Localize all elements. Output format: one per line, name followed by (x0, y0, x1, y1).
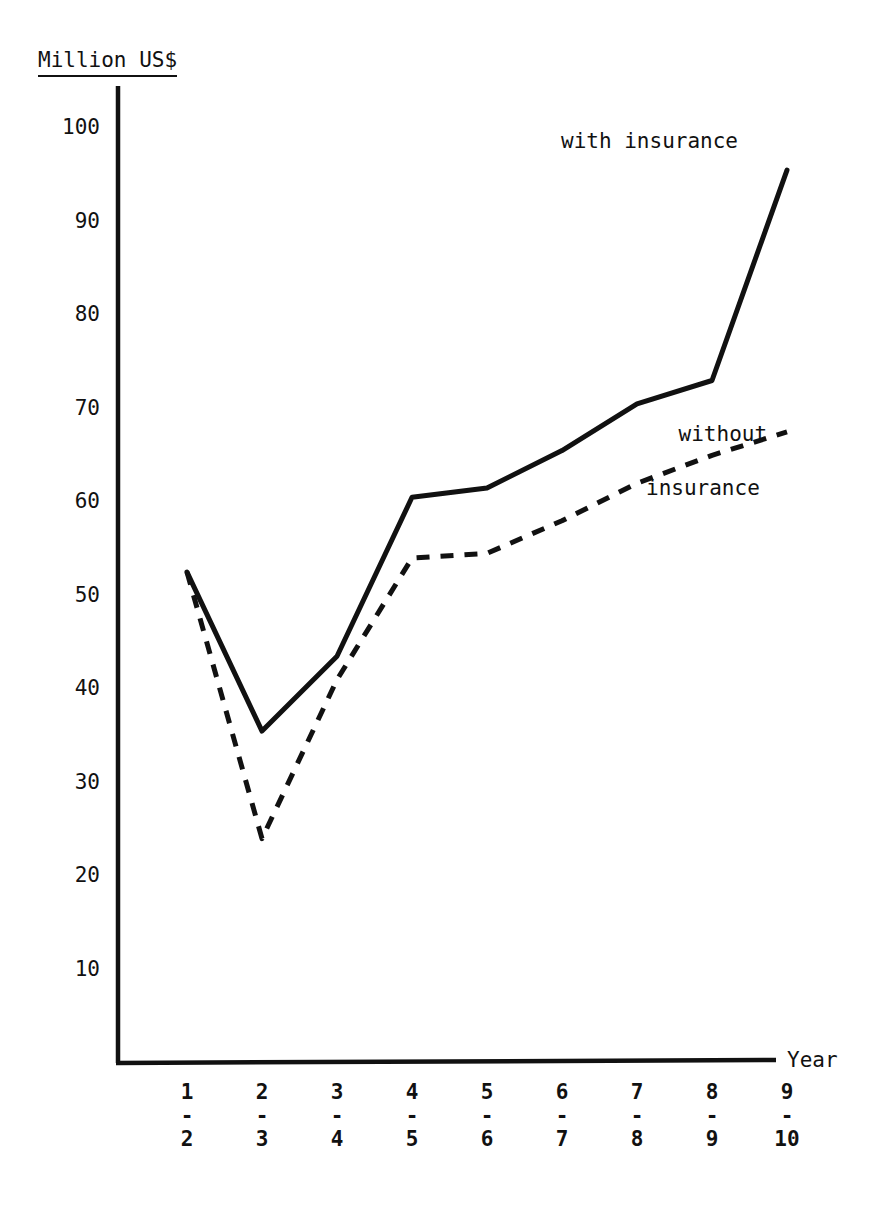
y-tick-label: 40 (42, 678, 100, 699)
x-tick-label-top: 5 (481, 1080, 494, 1104)
series-label-without-insurance: without insurance (628, 394, 767, 556)
x-tick-label-top: 7 (631, 1080, 644, 1104)
x-tick-label-top: 4 (406, 1080, 419, 1104)
x-tick-label-bottom: 10 (757, 1127, 817, 1152)
x-tick-label-bottom: 9 (682, 1127, 742, 1152)
y-tick-label: 30 (42, 772, 100, 793)
x-tick-label-top: 8 (706, 1080, 719, 1104)
x-tick-label-group: 4-5 (382, 1080, 442, 1152)
y-tick-label: 70 (42, 398, 100, 419)
series-label-without-insurance-line1: without (679, 422, 768, 446)
x-tick-label-dash: - (157, 1105, 217, 1127)
x-tick-label-bottom: 4 (307, 1127, 367, 1152)
y-tick-label: 80 (42, 304, 100, 325)
x-tick-label-dash: - (232, 1105, 292, 1127)
x-tick-label-bottom: 2 (157, 1127, 217, 1152)
x-tick-label-bottom: 5 (382, 1127, 442, 1152)
y-tick-label: 10 (42, 959, 100, 980)
x-axis-line (116, 1060, 776, 1063)
x-tick-label-group: 6-7 (532, 1080, 592, 1152)
x-tick-label-group: 1-2 (157, 1080, 217, 1152)
x-tick-label-dash: - (382, 1105, 442, 1127)
x-tick-label-dash: - (532, 1105, 592, 1127)
y-tick-label: 20 (42, 865, 100, 886)
x-tick-label-dash: - (457, 1105, 517, 1127)
x-tick-label-group: 9-10 (757, 1080, 817, 1152)
x-tick-label-top: 3 (331, 1080, 344, 1104)
x-tick-label-bottom: 7 (532, 1127, 592, 1152)
x-tick-label-dash: - (757, 1105, 817, 1127)
x-axis-title: Year (787, 1050, 838, 1071)
chart-container: Million US$ 102030405060708090100 1-22-3… (0, 0, 895, 1230)
x-tick-label-top: 1 (181, 1080, 194, 1104)
y-tick-label: 50 (42, 585, 100, 606)
x-tick-label-dash: - (682, 1105, 742, 1127)
x-tick-label-group: 7-8 (607, 1080, 667, 1152)
y-tick-label: 90 (42, 211, 100, 232)
series-label-without-insurance-line2: insurance (628, 475, 767, 502)
x-tick-label-group: 2-3 (232, 1080, 292, 1152)
x-tick-label-group: 5-6 (457, 1080, 517, 1152)
x-tick-label-bottom: 8 (607, 1127, 667, 1152)
x-tick-label-dash: - (607, 1105, 667, 1127)
series-label-with-insurance: with insurance (561, 128, 738, 155)
y-tick-label: 100 (42, 117, 100, 138)
y-tick-label: 60 (42, 491, 100, 512)
plot-area (0, 0, 895, 1230)
x-tick-label-top: 2 (256, 1080, 269, 1104)
x-tick-label-dash: - (307, 1105, 367, 1127)
x-tick-label-top: 6 (556, 1080, 569, 1104)
x-tick-label-top: 9 (781, 1080, 794, 1104)
x-tick-label-bottom: 3 (232, 1127, 292, 1152)
x-tick-label-group: 3-4 (307, 1080, 367, 1152)
x-tick-label-bottom: 6 (457, 1127, 517, 1152)
x-tick-label-group: 8-9 (682, 1080, 742, 1152)
